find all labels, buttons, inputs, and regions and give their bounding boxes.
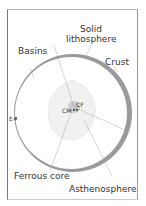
label-cm: CM bbox=[62, 106, 71, 116]
label-cf: CF bbox=[76, 100, 84, 110]
label-basins: Basins bbox=[18, 46, 47, 56]
leader-solid bbox=[86, 45, 91, 57]
label-crust: Crust bbox=[105, 57, 129, 67]
label-asthenosphere: Asthenosphere bbox=[69, 184, 137, 194]
label-e-plus: E+ bbox=[9, 114, 18, 124]
label-lithosphere: lithosphere bbox=[66, 34, 116, 44]
label-ferrous-core: Ferrous core bbox=[14, 171, 70, 181]
cm-dot bbox=[73, 109, 75, 111]
label-solid: Solid bbox=[80, 24, 102, 34]
